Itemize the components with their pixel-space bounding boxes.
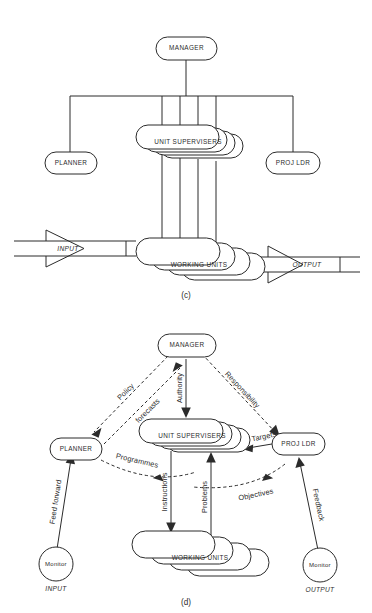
monitor-input-label: Monitor [45,561,67,567]
monitor-output-label: Monitor [309,562,331,568]
working-units-label: WORKING UNITS [171,261,228,268]
planner-d-label: PLANNER [60,445,93,452]
working-units-d-label: WORKING UNITS [172,554,229,561]
planner-node-c: PLANNER [45,152,97,174]
problems-label: Problems [200,481,209,513]
projldr-label: PROJ LDR [276,159,310,166]
manager-d-label: MANAGER [170,341,205,348]
manager-label: MANAGER [169,44,204,51]
panel-c-caption: (c) [181,291,191,300]
manager-node-d: MANAGER [158,334,216,357]
planner-node-d: PLANNER [50,438,102,460]
panel-d-caption: (d) [181,598,191,607]
unit-supervisers-label: UNIT SUPERVISERS [154,138,222,145]
unit-supervisers-d-label: UNIT SUPERVISERS [158,432,226,439]
manager-node-c: MANAGER [156,37,217,60]
projldr-node-d: PROJ LDR [272,433,325,455]
instructions-label: Instructions [160,472,169,511]
projldr-node-c: PROJ LDR [266,152,320,174]
monitor-output-io-label: OUTPUT [306,586,336,593]
output-label: OUTPUT [293,261,323,268]
figure-root: INPUT OUTPUT WORKING UNITS UNIT SUPERVIS… [0,0,372,613]
input-label: INPUT [57,245,79,252]
projldr-d-label: PROJ LDR [281,440,315,447]
planner-label: PLANNER [55,159,88,166]
authority-label: Authority [175,373,184,403]
monitor-output-node: Monitor OUTPUT [303,548,337,593]
organisation-structure-figure: INPUT OUTPUT WORKING UNITS UNIT SUPERVIS… [0,0,372,613]
monitor-input-io-label: INPUT [45,585,67,592]
